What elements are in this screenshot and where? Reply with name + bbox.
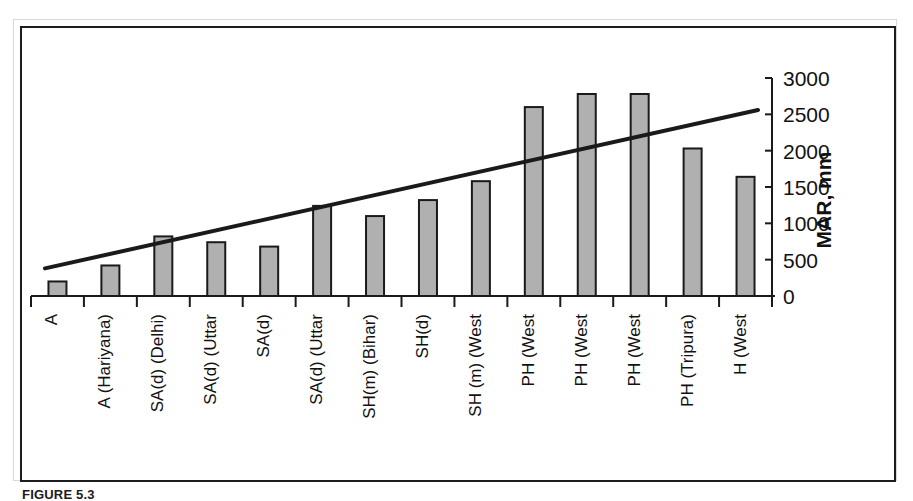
bar-chart-svg: 050010001500200025003000 AA (Hariyana)SA…: [0, 0, 913, 501]
y-axis-tick-label: 3000: [783, 67, 830, 90]
bar: [631, 94, 649, 296]
x-axis-tick-label: A (Hariyana): [95, 314, 114, 408]
x-axis-tick-label: A: [42, 313, 61, 325]
bar: [366, 216, 384, 296]
bar: [207, 242, 225, 296]
y-axis-title: MAR, mm: [812, 152, 835, 249]
x-axis-tick-label: PH (Tripura): [678, 314, 697, 407]
chart-plot-area: 050010001500200025003000 AA (Hariyana)SA…: [0, 0, 913, 501]
x-axis-tick-labels: AA (Hariyana)SA(d) (Delhi)SA(d) (UttarSA…: [42, 313, 749, 419]
x-axis-tick-label: PH (West: [519, 314, 538, 387]
x-axis-tick-label: PH (West: [572, 314, 591, 387]
y-axis-tick-label: 500: [783, 249, 818, 272]
bar: [419, 200, 437, 296]
x-axis-tick-label: H (West: [731, 314, 750, 375]
bar: [578, 94, 596, 296]
bar: [525, 107, 543, 296]
x-axis-ticks: [31, 296, 772, 307]
x-axis-tick-label: SH(m) (Bihar): [360, 314, 379, 419]
figure-container: 050010001500200025003000 AA (Hariyana)SA…: [0, 0, 913, 501]
x-axis-tick-label: SH (m) (West: [466, 314, 485, 417]
x-axis-tick-label: SH(d): [413, 314, 432, 358]
bar: [737, 177, 755, 296]
x-axis-tick-label: PH (West: [625, 314, 644, 387]
trend-line: [45, 110, 758, 268]
bar: [48, 281, 66, 296]
x-axis-tick-label: SA(d) (Uttar: [201, 314, 220, 405]
bar: [684, 148, 702, 296]
bar: [313, 206, 331, 296]
bar: [260, 247, 278, 296]
y-axis-tick-label: 0: [783, 285, 795, 308]
bar-series: [48, 94, 754, 296]
x-axis-tick-label: SA(d) (Delhi): [148, 314, 167, 412]
bar: [101, 265, 119, 296]
figure-caption: FIGURE 5.3: [22, 487, 622, 501]
x-axis-tick-label: SA(d) (Uttar: [307, 314, 326, 405]
y-axis-tick-label: 2500: [783, 103, 830, 126]
x-axis-tick-label: SA(d): [254, 314, 273, 357]
bar: [472, 181, 490, 296]
y-axis-ticks: [765, 78, 772, 296]
